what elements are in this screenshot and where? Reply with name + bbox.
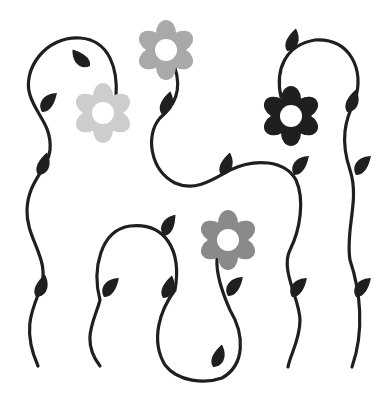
flower-dark-gray (197, 210, 259, 270)
flower-black (260, 86, 322, 146)
flower-mid-gray (135, 20, 197, 80)
vines (27, 38, 360, 381)
flower-light-gray (72, 83, 134, 143)
leaves (30, 29, 374, 368)
floral-vine-illustration (0, 0, 389, 405)
